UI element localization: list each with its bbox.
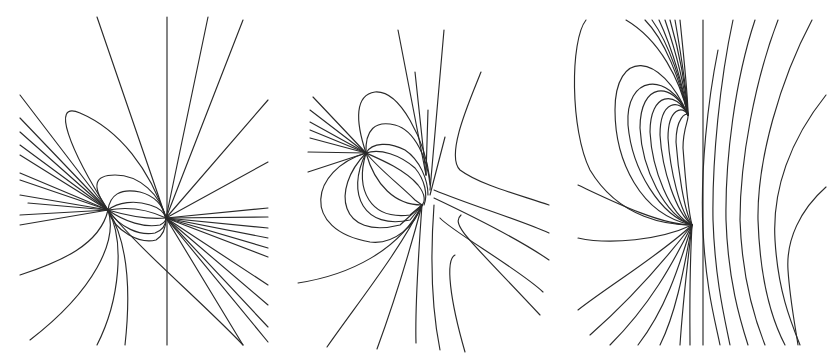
field-line [660,225,692,345]
field-line [366,153,422,205]
field-line [313,97,366,153]
panel-1-two-source-field [20,17,268,345]
field-line [97,210,118,345]
field-line [310,122,366,153]
field-line [740,20,778,345]
field-line [788,187,826,345]
field-line [366,144,428,195]
field-line [455,72,549,205]
field-line [308,152,366,153]
field-line [713,20,733,345]
field-line [310,110,366,153]
field-line [166,218,268,305]
field-line [377,205,422,349]
field-line [450,255,465,352]
field-line [97,17,166,218]
panel-3-dipole-loops-field [574,20,826,345]
field-line [30,210,110,340]
field-line [758,20,812,345]
field-line [366,153,422,205]
field-line [108,210,128,345]
field-line [20,118,108,210]
field-line [20,132,108,210]
field-line [366,151,426,205]
field-line [166,218,268,342]
field-line [578,225,692,241]
field-line [702,50,720,345]
field-line [20,180,108,210]
field-line [20,173,108,210]
field-line [578,225,692,310]
field-line [434,198,549,260]
field-line [166,100,268,218]
field-line [358,153,422,222]
field-line [726,20,755,345]
field-line [578,185,692,225]
field-line [638,225,692,345]
panel-2-loop-and-separatrix-field [298,30,549,352]
field-line [310,130,366,153]
field-line [166,217,268,218]
field-line [20,95,108,210]
field-line [310,138,366,153]
field-line [166,20,243,218]
field-line [20,210,108,275]
field-lines-figure [0,0,839,363]
field-line [432,205,440,350]
field-line [676,114,692,225]
field-line [65,111,166,218]
figure-stage [0,0,839,363]
field-line [166,17,208,218]
field-line [683,115,692,225]
field-line [20,195,108,210]
field-line [20,145,108,210]
field-line [166,218,268,327]
field-line [363,153,422,216]
field-line [108,210,166,234]
field-line [775,95,826,345]
